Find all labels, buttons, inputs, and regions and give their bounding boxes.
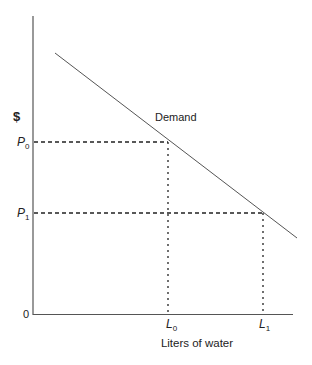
y-axis-label: $: [13, 109, 21, 124]
x-axis-label: Liters of water: [161, 337, 233, 349]
p1-label: P1: [17, 206, 30, 222]
l1-label: L1: [259, 317, 271, 333]
demand-label: Demand: [155, 111, 197, 123]
l0-label: L0: [166, 317, 178, 333]
p0-label: P0: [17, 135, 30, 151]
demand-diagram: $ P0 P1 0 Demand L0 L1 Liters of water: [0, 0, 312, 365]
demand-curve: [55, 53, 297, 238]
origin-label: 0: [23, 308, 29, 320]
